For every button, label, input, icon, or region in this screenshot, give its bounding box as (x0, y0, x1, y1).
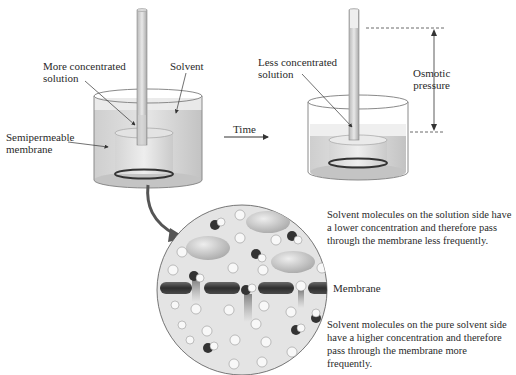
label-membrane: Membrane (333, 282, 381, 294)
label-less-concentrated-solution: Less concentrated solution (258, 56, 337, 80)
label-semipermeable-membrane: Semipermeable membrane (6, 131, 74, 155)
label-solvent: Solvent (170, 60, 204, 72)
text-solution-side: Solvent molecules on the solution side h… (327, 208, 513, 247)
magnified-view (157, 205, 338, 375)
label-osmotic-pressure: Osmotic pressure (413, 67, 450, 91)
text-pure-solvent-side: Solvent molecules on the pure solvent si… (327, 318, 513, 370)
magnify-arrow (148, 185, 176, 235)
label-more-concentrated-solution: More concentrated solution (43, 60, 126, 84)
label-time: Time (233, 123, 256, 135)
right-beaker (308, 9, 408, 181)
left-beaker (94, 9, 202, 189)
